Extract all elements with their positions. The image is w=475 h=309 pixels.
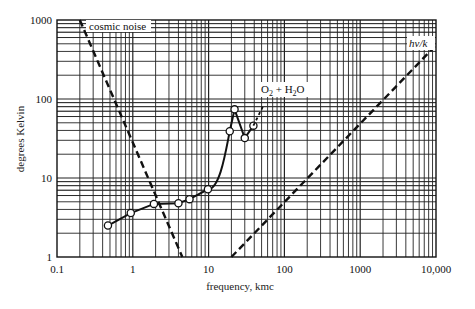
x-axis-ticks: 0.1110100100010,000 bbox=[50, 263, 452, 275]
x-tick-label: 0.1 bbox=[50, 263, 64, 275]
y-axis-ticks: 1101001000 bbox=[30, 14, 53, 263]
x-tick-label: 100 bbox=[276, 263, 293, 275]
data-point-marker bbox=[175, 200, 182, 207]
y-tick-label: 10 bbox=[41, 172, 53, 184]
data-point-marker bbox=[204, 186, 211, 193]
y-axis-label: degrees Kelvin bbox=[14, 105, 26, 172]
data-point-marker bbox=[231, 106, 238, 113]
x-axis-label: frequency, kmc bbox=[206, 280, 274, 292]
data-point-marker bbox=[226, 128, 233, 135]
data-point-marker bbox=[127, 209, 134, 216]
x-tick-label: 1000 bbox=[349, 263, 372, 275]
x-tick-label: 10,000 bbox=[421, 263, 452, 275]
y-tick-label: 1 bbox=[47, 251, 53, 263]
data-point-marker bbox=[186, 196, 193, 203]
data-point-marker bbox=[104, 222, 111, 229]
data-point-marker bbox=[250, 122, 257, 129]
dashed-line bbox=[80, 20, 182, 257]
x-tick-label: 1 bbox=[130, 263, 136, 275]
data-point-marker bbox=[241, 134, 248, 141]
x-tick-label: 10 bbox=[203, 263, 215, 275]
dashed-line bbox=[231, 45, 436, 257]
cosmic-noise-label: cosmic noise bbox=[89, 20, 146, 32]
y-tick-label: 1000 bbox=[30, 14, 53, 26]
y-tick-label: 100 bbox=[36, 93, 53, 105]
data-point-marker bbox=[150, 200, 157, 207]
hvk-label: hν/k bbox=[409, 37, 428, 49]
chart: 0.1110100100010,000 1101001000 frequency… bbox=[0, 0, 475, 309]
